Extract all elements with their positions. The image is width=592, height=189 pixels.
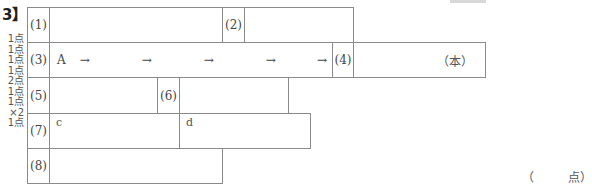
total-points-label: 点） [568, 168, 592, 185]
score-column: 1点 1点 1点 1点 2点 1点 1点 ×2 1点 [2, 34, 24, 129]
section-header: 3】 [2, 3, 27, 24]
q2-label: (2) [222, 7, 245, 43]
arrow-icon: → [266, 53, 276, 67]
q8-label: (8) [27, 148, 50, 184]
q7-part-d-label: d [186, 116, 193, 129]
q7-part-c-label: c [56, 116, 62, 129]
arrow-icon: → [142, 53, 152, 67]
cropped-text-fragment [450, 0, 486, 3]
q5-label: (5) [27, 77, 50, 114]
q1-answer-box[interactable] [49, 7, 223, 43]
q3-start: A [57, 53, 66, 67]
q5-answer-box[interactable] [49, 77, 158, 114]
q4-unit: （本） [437, 52, 473, 69]
q7d-answer-box[interactable]: d [179, 113, 311, 149]
q8-answer-box[interactable] [49, 148, 223, 184]
q4-label: (4) [332, 42, 354, 78]
q6-label: (6) [157, 77, 180, 114]
q1-label: (1) [27, 7, 50, 43]
q7-label: (7) [27, 113, 50, 149]
score-item: 2点 [2, 76, 24, 87]
score-item: 1点 [2, 118, 24, 129]
q7c-answer-box[interactable]: c [49, 113, 180, 149]
arrow-icon: → [204, 53, 214, 67]
arrow-icon: → [80, 53, 90, 67]
score-item: 1点 [2, 34, 24, 45]
q2-answer-box[interactable] [244, 7, 354, 43]
score-item: 1点 [2, 97, 24, 108]
q6-answer-box[interactable] [179, 77, 289, 114]
score-item: 1点 [2, 55, 24, 66]
q3-answer-box[interactable]: A → → → → → B [49, 42, 333, 78]
q4-answer-box[interactable]: （本） [353, 42, 486, 78]
arrow-icon: → [317, 53, 327, 67]
q3-label: (3) [27, 42, 50, 78]
total-open-paren: （ [522, 168, 534, 185]
